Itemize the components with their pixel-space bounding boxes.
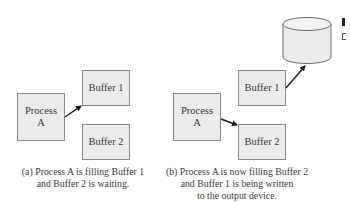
output-device-cylinder-icon xyxy=(283,18,331,64)
cropped-text-fragment xyxy=(342,33,346,40)
arrow-buffer1-to-device xyxy=(286,66,305,88)
cropped-heading-fragment xyxy=(342,18,345,26)
arrow-process-to-buffer1 xyxy=(65,106,81,117)
arrow-process-to-buffer2 xyxy=(221,119,237,125)
diagram-connectors xyxy=(0,0,350,202)
